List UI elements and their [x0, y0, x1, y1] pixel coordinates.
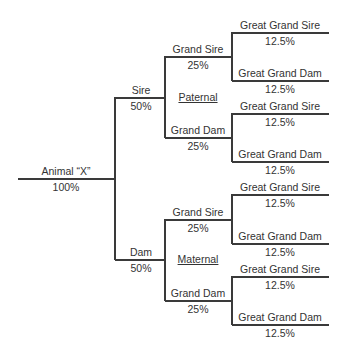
paternal-label: Paternal	[178, 91, 217, 103]
ggs-label: Great Grand Sire	[240, 263, 320, 275]
ggd-label: Great Grand Dam	[238, 311, 321, 323]
sire-grand-sire-pct: 25%	[187, 59, 208, 71]
root-pct: 100%	[53, 181, 80, 193]
maternal-label: Maternal	[178, 253, 219, 265]
dam-label: Dam	[130, 246, 152, 258]
connector	[231, 194, 233, 244]
ggd-label: Great Grand Dam	[238, 67, 321, 79]
sire-pct: 50%	[130, 100, 151, 112]
dam-grand-sire-line	[165, 219, 232, 221]
ggd-label: Great Grand Dam	[238, 148, 321, 160]
ggs-line	[232, 32, 329, 34]
sire-grand-sire-line	[165, 56, 232, 58]
ggd-pct: 12.5%	[265, 164, 295, 176]
ggs-pct: 12.5%	[265, 116, 295, 128]
ggs-pct: 12.5%	[265, 35, 295, 47]
sire-grand-sire-label: Grand Sire	[173, 43, 224, 55]
ggs-label: Great Grand Sire	[240, 100, 320, 112]
root-connector	[114, 97, 116, 260]
ggd-line	[232, 80, 329, 82]
sire-connector	[164, 56, 166, 138]
ggd-pct: 12.5%	[265, 327, 295, 339]
dam-grand-dam-pct: 25%	[187, 303, 208, 315]
root-line	[18, 178, 115, 180]
ggs-label: Great Grand Sire	[240, 19, 320, 31]
root-label: Animal “X”	[41, 165, 90, 177]
sire-grand-dam-label: Grand Dam	[171, 124, 225, 136]
sire-line	[115, 97, 165, 99]
sire-label: Sire	[132, 84, 151, 96]
connector	[231, 32, 233, 81]
dam-pct: 50%	[130, 262, 151, 274]
ggd-pct: 12.5%	[265, 246, 295, 258]
ggs-pct: 12.5%	[265, 279, 295, 291]
ggs-line	[232, 276, 329, 278]
sire-grand-dam-pct: 25%	[187, 140, 208, 152]
ggs-line	[232, 113, 329, 115]
ggd-line	[232, 324, 329, 326]
dam-grand-dam-line	[165, 300, 232, 302]
sire-grand-dam-line	[165, 137, 232, 139]
connector	[231, 113, 233, 162]
ggd-line	[232, 161, 329, 163]
dam-line	[115, 259, 165, 261]
connector	[231, 276, 233, 325]
ggs-pct: 12.5%	[265, 197, 295, 209]
ggs-line	[232, 194, 329, 196]
dam-connector	[164, 219, 166, 301]
ggd-pct: 12.5%	[265, 83, 295, 95]
ggd-line	[232, 243, 329, 245]
dam-grand-dam-label: Grand Dam	[171, 287, 225, 299]
dam-grand-sire-label: Grand Sire	[173, 206, 224, 218]
dam-grand-sire-pct: 25%	[187, 222, 208, 234]
ggs-label: Great Grand Sire	[240, 181, 320, 193]
ggd-label: Great Grand Dam	[238, 230, 321, 242]
